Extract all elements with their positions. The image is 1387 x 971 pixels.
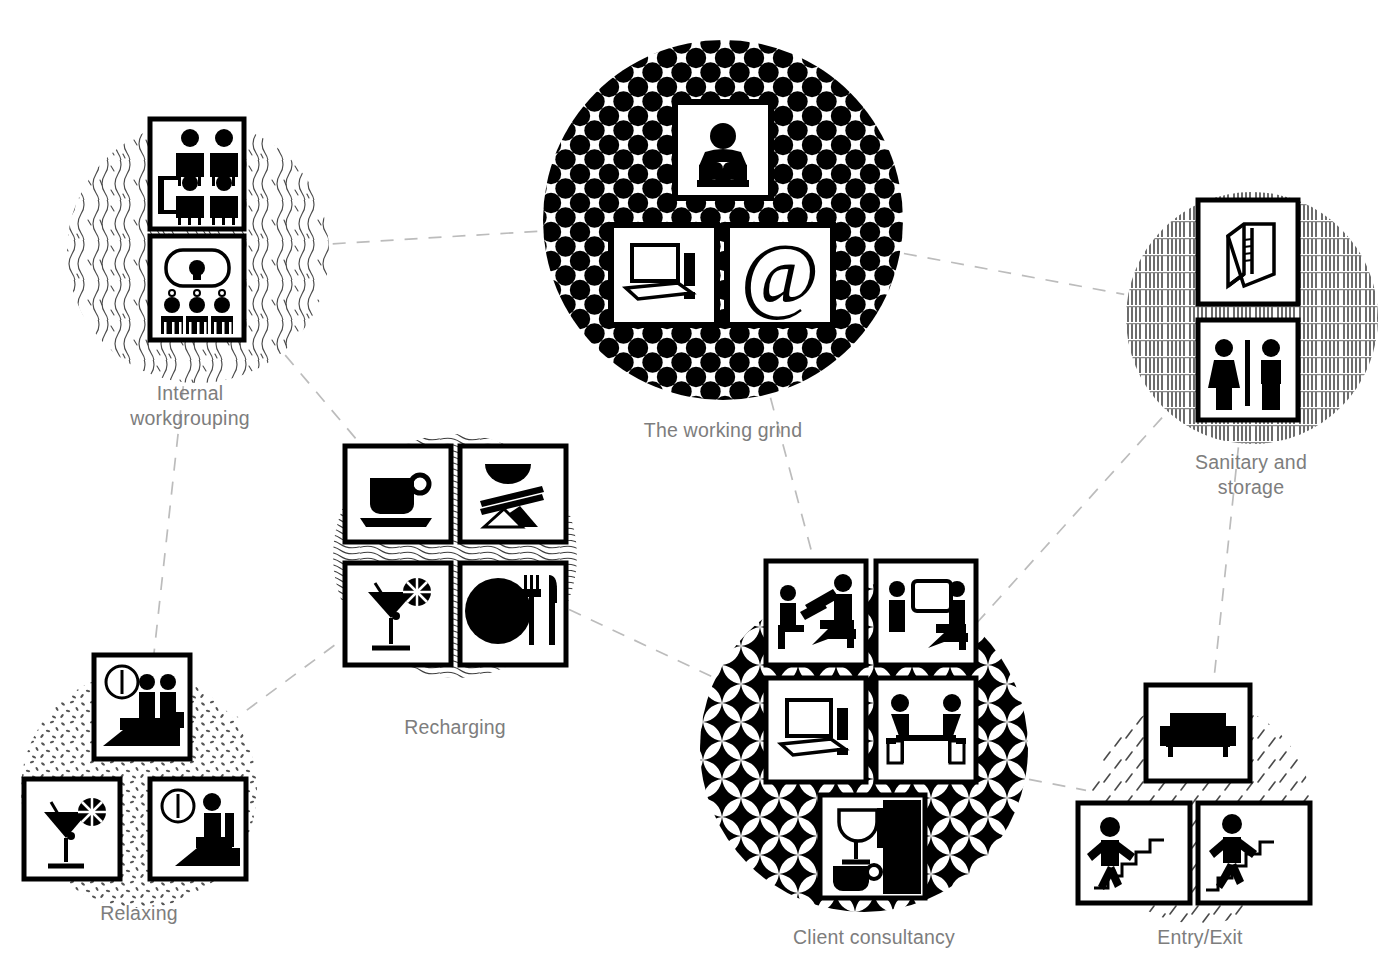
tile-sofa-reception[interactable] xyxy=(1146,685,1250,781)
lemon-wheel xyxy=(403,578,431,606)
tile-asian-food-bowl[interactable] xyxy=(460,446,566,542)
tile-consultation-screen[interactable] xyxy=(876,561,976,665)
tile-desktop-computer-consult[interactable] xyxy=(766,678,866,782)
cluster-the-working-grind[interactable]: @ xyxy=(543,40,903,400)
diagram-canvas: @ xyxy=(0,0,1387,971)
tile-coffee-cup[interactable] xyxy=(345,446,451,542)
tile-person-reading[interactable] xyxy=(675,102,771,198)
tile-cocktail-glass[interactable] xyxy=(345,563,451,665)
tile-stairs-down[interactable] xyxy=(1198,803,1310,903)
desktop-computer-icon xyxy=(626,245,695,299)
cluster-label-internal-workgrouping: Internal workgrouping xyxy=(90,381,290,431)
tile-at-sign-email[interactable]: @ xyxy=(727,225,833,325)
tile-stairs-up[interactable] xyxy=(1078,803,1190,903)
cluster-label-sanitary-and-storage: Sanitary and storage xyxy=(1151,450,1351,500)
tile-meeting-people[interactable] xyxy=(150,119,244,229)
desktop-computer-icon xyxy=(781,700,848,755)
at-sign-icon: @ xyxy=(740,226,819,322)
tile-restroom-wc[interactable] xyxy=(1198,320,1298,420)
cluster-label-entry-exit: Entry/Exit xyxy=(1100,925,1300,950)
tile-lounge-two-people[interactable] xyxy=(94,655,190,759)
cluster-internal-workgrouping[interactable] xyxy=(67,119,329,383)
cluster-sanitary-and-storage[interactable] xyxy=(1126,192,1378,444)
tile-cocktail-glass-relax[interactable] xyxy=(24,779,120,879)
tile-lounge-person-armchair[interactable] xyxy=(150,779,246,879)
tile-desktop-computer[interactable] xyxy=(611,225,717,325)
cluster-client-consultancy[interactable] xyxy=(700,561,1028,912)
cluster-relaxing[interactable] xyxy=(21,655,257,908)
cluster-label-recharging: Recharging xyxy=(355,715,555,740)
tile-presentation-audience[interactable] xyxy=(150,236,244,340)
tile-refreshments-drinks[interactable] xyxy=(820,795,925,898)
tile-plate-cutlery[interactable] xyxy=(460,563,566,665)
cluster-entry-exit[interactable] xyxy=(1078,685,1312,924)
tile-storage-cabinet[interactable] xyxy=(1198,200,1298,304)
cluster-recharging[interactable] xyxy=(333,434,577,678)
cluster-label-relaxing: Relaxing xyxy=(39,901,239,926)
tile-consultation-presenting[interactable] xyxy=(766,561,866,665)
tile-meeting-table-two-people[interactable] xyxy=(876,678,976,782)
cluster-label-the-working-grind: The working grind xyxy=(603,418,843,443)
cluster-label-client-consultancy: Client consultancy xyxy=(754,925,994,950)
texture-halftone-dots xyxy=(543,40,903,400)
